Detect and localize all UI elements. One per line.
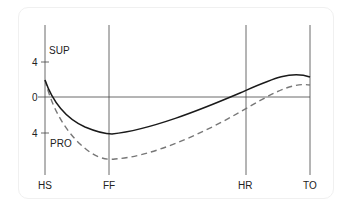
hr-label: HR (238, 180, 252, 191)
tick-label-zero: 0 (32, 92, 38, 103)
gait-chart: 4 0 4 SUP PRO HS FF HR TO (0, 0, 348, 209)
to-label: TO (303, 180, 317, 191)
hs-label: HS (38, 180, 52, 191)
solid-curve (45, 75, 310, 134)
tick-label-upper: 4 (32, 57, 38, 68)
pro-label: PRO (50, 138, 72, 149)
sup-label: SUP (49, 45, 70, 56)
ff-label: FF (103, 180, 115, 191)
tick-label-lower: 4 (32, 128, 38, 139)
dashed-curve (45, 80, 310, 159)
